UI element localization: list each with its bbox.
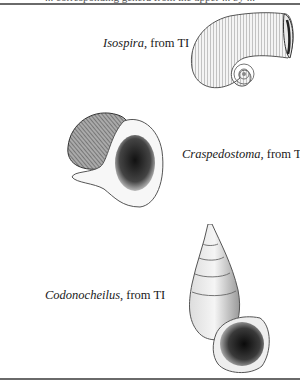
isospira-shell-illustration — [186, 6, 300, 98]
genus-name: Isospira — [103, 36, 144, 50]
caption-suffix: , from TI — [120, 288, 165, 302]
figure-caption-craspedostoma: Craspedostoma, from TI — [182, 147, 300, 162]
top-rule — [0, 3, 300, 5]
genus-name: Codonocheilus — [45, 288, 120, 302]
caption-suffix: , from TI — [260, 147, 300, 161]
craspedostoma-shell-illustration — [60, 107, 165, 209]
genus-name: Craspedostoma — [182, 147, 260, 161]
caption-suffix: , from TI — [144, 36, 189, 50]
bottom-rule — [0, 378, 300, 380]
codonocheilus-shell-illustration — [176, 224, 272, 376]
figure-caption-isospira: Isospira, from TI — [103, 36, 189, 51]
figure-caption-codonocheilus: Codonocheilus, from TI — [45, 288, 165, 303]
